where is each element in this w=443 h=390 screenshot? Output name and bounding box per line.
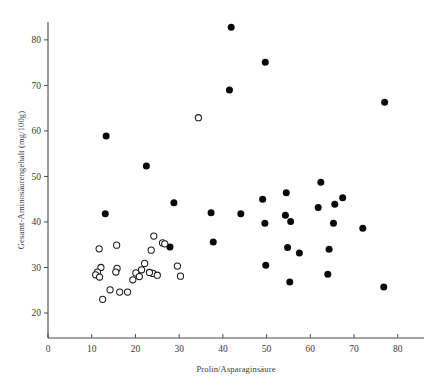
filled-circle-marker bbox=[324, 271, 331, 278]
filled-circle-marker bbox=[103, 132, 110, 139]
filled-circle-marker bbox=[283, 189, 290, 196]
x-tick-label: 30 bbox=[174, 344, 184, 354]
open-circle-marker bbox=[154, 272, 160, 278]
filled-circle-marker bbox=[102, 210, 109, 217]
open-circle-marker bbox=[96, 246, 102, 252]
open-circle-marker bbox=[136, 273, 142, 279]
x-tick-label: 70 bbox=[349, 344, 359, 354]
filled-circle-marker bbox=[208, 209, 215, 216]
plot-canvas: 2030405060708001020304050607080 Prolin/A… bbox=[0, 0, 443, 390]
open-circle-marker bbox=[162, 241, 168, 247]
open-circle-marker bbox=[142, 260, 148, 266]
filled-circle-marker bbox=[380, 284, 387, 291]
filled-circle-marker bbox=[261, 220, 268, 227]
filled-circle-marker bbox=[286, 279, 293, 286]
filled-circle-marker bbox=[315, 204, 322, 211]
y-tick-label: 40 bbox=[32, 217, 42, 227]
axes bbox=[48, 22, 424, 338]
x-tick-label: 60 bbox=[306, 344, 316, 354]
filled-circle-marker bbox=[210, 238, 217, 245]
filled-circle-marker bbox=[262, 262, 269, 269]
filled-circle-marker bbox=[259, 196, 266, 203]
tick-marks bbox=[44, 40, 398, 338]
filled-circle-marker bbox=[381, 99, 388, 106]
filled-circle-marker bbox=[287, 218, 294, 225]
scatter-plot-figure: 2030405060708001020304050607080 Prolin/A… bbox=[0, 0, 443, 390]
open-circle-marker bbox=[130, 277, 136, 283]
open-circle-marker bbox=[138, 267, 144, 273]
axis-titles: Prolin/AsparaginsäureGesamt-Aminosäureng… bbox=[16, 111, 276, 374]
filled-circle-marker bbox=[331, 201, 338, 208]
filled-circle-marker bbox=[228, 24, 235, 31]
open-circle-marker bbox=[177, 273, 183, 279]
open-circle-marker bbox=[151, 233, 157, 239]
open-circle-marker bbox=[96, 274, 102, 280]
filled-circle-marker bbox=[237, 210, 244, 217]
y-tick-label: 70 bbox=[32, 81, 42, 91]
filled-circle-marker bbox=[317, 179, 324, 186]
filled-circle-marker bbox=[143, 162, 150, 169]
filled-circle-marker bbox=[326, 246, 333, 253]
filled-circle-marker bbox=[330, 220, 337, 227]
filled-circle-marker bbox=[359, 225, 366, 232]
filled-circle-marker bbox=[282, 212, 289, 219]
origin-tick-label: 0 bbox=[46, 344, 51, 354]
filled-circle-marker bbox=[262, 59, 269, 66]
open-circle-marker bbox=[107, 287, 113, 293]
data-points bbox=[93, 24, 389, 303]
filled-circle-marker bbox=[170, 199, 177, 206]
filled-circle-marker bbox=[226, 86, 233, 93]
x-tick-label: 20 bbox=[131, 344, 141, 354]
filled-circle-marker bbox=[339, 194, 346, 201]
open-circle-marker bbox=[146, 269, 152, 275]
filled-circle-marker bbox=[284, 244, 291, 251]
x-tick-label: 80 bbox=[393, 344, 403, 354]
open-circle-marker bbox=[124, 289, 130, 295]
open-circle-marker bbox=[114, 242, 120, 248]
x-tick-label: 40 bbox=[218, 344, 228, 354]
tick-labels: 2030405060708001020304050607080 bbox=[32, 35, 403, 354]
y-tick-label: 60 bbox=[32, 126, 42, 136]
y-tick-label: 20 bbox=[32, 308, 42, 318]
x-tick-label: 50 bbox=[262, 344, 272, 354]
x-axis-title: Prolin/Asparaginsäure bbox=[196, 364, 275, 374]
x-tick-label: 10 bbox=[87, 344, 97, 354]
open-circle-marker bbox=[174, 263, 180, 269]
y-axis-title: Gesamt-Aminosäurengehalt (mg/100g) bbox=[16, 111, 26, 249]
open-circle-marker bbox=[113, 269, 119, 275]
open-circle-marker bbox=[117, 289, 123, 295]
filled-circle-marker bbox=[296, 249, 303, 256]
open-circle-marker bbox=[195, 115, 201, 121]
y-tick-label: 30 bbox=[32, 263, 42, 273]
y-tick-label: 80 bbox=[32, 35, 42, 45]
open-circle-marker bbox=[148, 247, 154, 253]
open-circle-marker bbox=[100, 296, 106, 302]
y-tick-label: 50 bbox=[32, 172, 42, 182]
